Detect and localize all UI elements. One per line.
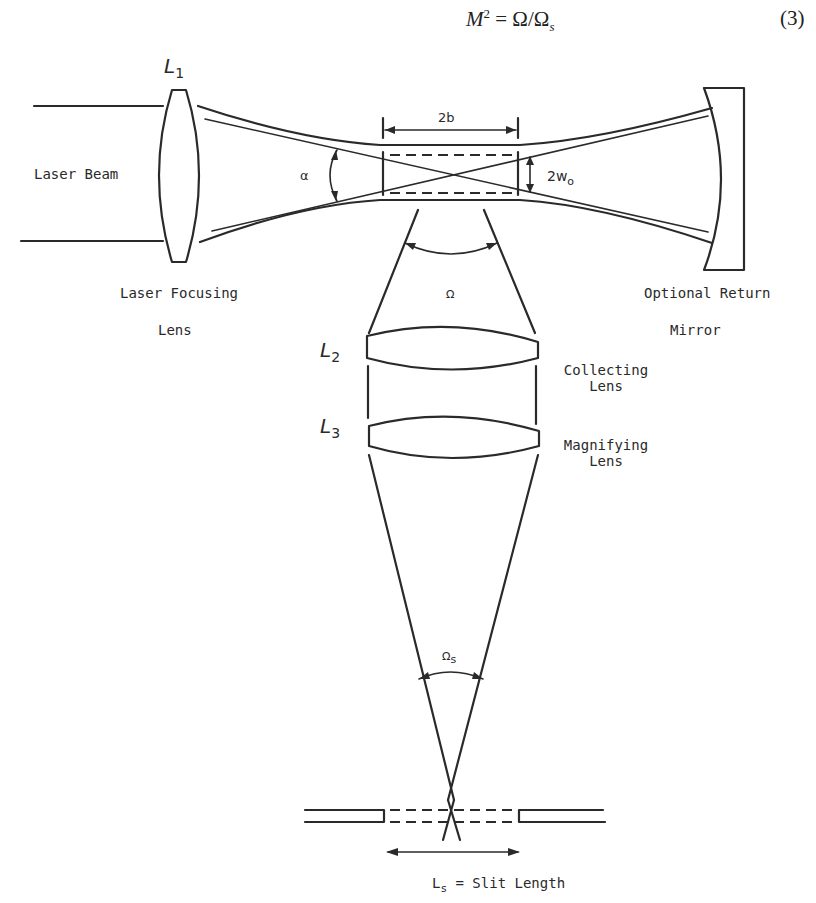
laser-focusing-label-line1: Laser Focusing: [120, 285, 238, 301]
beam-envelope-bottom: [200, 200, 712, 243]
magnifying-label-line1: Magnifying: [556, 437, 656, 453]
lens-l1-label: L1: [164, 54, 184, 81]
image-cone-right-extension: [448, 800, 460, 840]
magnifying-label-line2: Lens: [556, 453, 656, 469]
magnifying-lens-l3: [369, 417, 539, 458]
image-cone-left: [369, 455, 454, 800]
magnifying-lens-label: Magnifying Lens: [556, 437, 656, 469]
laser-focusing-label-line2: Lens: [158, 322, 192, 338]
lens-l3-label: L3: [320, 414, 340, 441]
optional-return-label-line1: Optional Return: [644, 285, 770, 301]
laser-beam-label: Laser Beam: [34, 166, 118, 182]
lens-l1-symbol: L: [164, 54, 175, 78]
optional-return-label-line2: Mirror: [670, 322, 721, 338]
focusing-lens-l1: [159, 90, 199, 262]
optical-diagram: M2 = Ω/Ωs (3): [0, 0, 816, 903]
omega-s-symbol: Ωs: [442, 650, 456, 666]
slit-text: = Slit Length: [456, 875, 566, 891]
lens-l2-symbol: L: [320, 338, 331, 362]
slit-length-arrow-left: [386, 848, 398, 856]
slit-left-jaw: [305, 810, 384, 822]
collecting-lens-label: Collecting Lens: [556, 362, 656, 394]
lens-l2-label: L2: [320, 338, 340, 365]
omega-arrow-right: [486, 243, 497, 250]
beam-envelope-top: [198, 106, 712, 145]
slit-length-label: Ls = Slit Length: [432, 875, 565, 895]
dim-2b-arrow-right: [506, 126, 516, 134]
two-w-sub: o: [567, 175, 574, 188]
omega-symbol: Ω: [446, 288, 454, 301]
collecting-label-line2: Lens: [556, 378, 656, 394]
collecting-lens-l2: [367, 327, 538, 370]
omega-s-arrow-left: [419, 672, 430, 679]
ray-asymptote-2: [212, 116, 708, 231]
image-cone-left-extension: [443, 800, 454, 840]
diagram-drawing: [0, 0, 816, 903]
lens-l3-symbol: L: [320, 414, 331, 438]
omega-arrow-left: [405, 243, 416, 250]
collecting-label-line1: Collecting: [556, 362, 656, 378]
omega-arc: [405, 243, 497, 254]
collection-cone-left: [369, 210, 418, 333]
dim-2b-arrow-left: [385, 126, 395, 134]
two-b-symbol: 2b: [438, 110, 455, 125]
slit-length-arrow-right: [508, 848, 520, 856]
two-w0-symbol: 2wo: [547, 168, 574, 188]
image-cone-right: [448, 455, 538, 800]
lens-l2-index: 2: [331, 349, 340, 365]
alpha-symbol: α: [300, 168, 309, 183]
collection-cone-right: [484, 210, 535, 333]
lens-l1-index: 1: [175, 65, 184, 81]
omega-s-sub: s: [450, 653, 456, 666]
slit-right-jaw: [519, 810, 605, 822]
slit-sub: s: [440, 882, 447, 895]
lens-l3-index: 3: [331, 425, 340, 441]
two-w-text: 2w: [547, 168, 567, 184]
